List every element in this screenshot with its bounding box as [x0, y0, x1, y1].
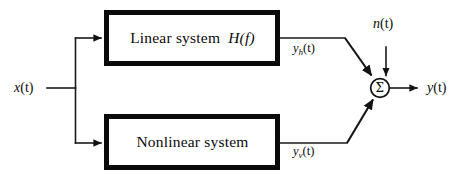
block-diagram-canvas: Σ Linear system H(f) Nonlinear system x(…: [0, 0, 462, 178]
linear-system-text: Linear system: [130, 29, 220, 46]
wire-linear-to-summer: [345, 38, 372, 76]
noise-base: n: [373, 16, 380, 31]
block-linear-system-label: Linear system H(f): [126, 30, 259, 46]
noise-arg: (t): [380, 16, 393, 31]
sigma-icon: Σ: [376, 82, 384, 94]
transfer-function-label: H(f): [228, 29, 255, 46]
signal-label-linear-output: yh(t): [293, 42, 315, 57]
signal-label-noise: n(t): [373, 17, 393, 31]
output-arg: (t): [433, 80, 446, 95]
transfer-function-symbol: H(f): [228, 29, 255, 46]
wire-nonlinear-to-summer: [347, 100, 373, 144]
signal-label-output: y(t): [427, 81, 446, 95]
nonlinear-output-arg: (t): [303, 144, 315, 158]
block-nonlinear-system-label: Nonlinear system: [126, 134, 259, 150]
signal-label-input: x(t): [14, 81, 33, 95]
linear-output-arg: (t): [303, 41, 315, 55]
signal-label-nonlinear-output: yv(t): [293, 145, 314, 160]
nonlinear-system-text: Nonlinear system: [136, 133, 248, 150]
input-arg: (t): [20, 80, 33, 95]
